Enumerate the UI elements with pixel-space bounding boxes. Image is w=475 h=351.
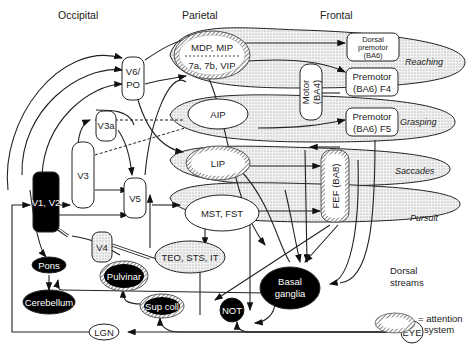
svg-text:FEF (BA8): FEF (BA8) (330, 164, 341, 209)
node-v3: V3 (72, 142, 94, 208)
legend-attention-swatch (375, 313, 415, 333)
svg-text:MDP, MIP: MDP, MIP (191, 42, 233, 53)
header-parietal: Parietal (182, 9, 218, 21)
visual-pathways-diagram: Occipital Parietal Frontal Reaching Gras… (0, 0, 475, 351)
svg-text:V5: V5 (129, 193, 141, 204)
node-v3a: V3a (96, 111, 116, 141)
node-basal-ganglia: Basal ganglia (260, 267, 320, 309)
node-motor-ba4: Motor (BA4) (300, 64, 322, 120)
node-lip: LIP (186, 146, 250, 180)
legend-dorsal-line2: streams (390, 277, 424, 288)
node-mst-fst: MST, FST (185, 195, 259, 231)
node-v4: V4 (92, 232, 112, 262)
svg-text:Pons: Pons (38, 260, 60, 271)
header-frontal: Frontal (320, 9, 353, 21)
legend-attention-line1: = attention (418, 313, 463, 324)
svg-text:(BA6): (BA6) (363, 51, 383, 60)
svg-text:(BA6) F5: (BA6) F5 (353, 123, 391, 134)
svg-text:V6/: V6/ (126, 66, 141, 77)
svg-text:NOT: NOT (222, 305, 242, 316)
svg-text:MST, FST: MST, FST (201, 208, 243, 219)
node-pons: Pons (32, 257, 66, 273)
svg-text:7a, 7b, VIP: 7a, 7b, VIP (188, 60, 235, 71)
svg-text:Cerebellum: Cerebellum (25, 297, 74, 308)
node-sup-coll: Sup coll (140, 294, 184, 318)
svg-text:LGN: LGN (94, 327, 114, 338)
svg-text:PO: PO (126, 79, 140, 90)
node-v6-po: V6/ PO (122, 57, 144, 100)
node-mdp-mip-7a: MDP, MIP 7a, 7b, VIP (174, 31, 250, 79)
svg-text:ganglia: ganglia (275, 288, 306, 299)
svg-text:TEO, STS, IT: TEO, STS, IT (161, 252, 218, 263)
node-premotor-f5: Premotor (BA6) F5 (346, 108, 398, 136)
legend-dorsal-line1: Dorsal (390, 265, 417, 276)
node-cerebellum: Cerebellum (23, 290, 75, 314)
svg-text:V4: V4 (96, 242, 108, 253)
svg-text:LIP: LIP (211, 158, 225, 169)
node-fef-ba8: FEF (BA8) (321, 150, 349, 222)
svg-text:Pulvinar: Pulvinar (107, 271, 141, 282)
node-pulvinar: Pulvinar (100, 261, 148, 291)
svg-text:Premotor: Premotor (352, 71, 391, 82)
legend-attention-line2: system (424, 324, 454, 335)
stream-label-grasping: Grasping (400, 117, 437, 127)
node-v5: V5 (124, 178, 146, 218)
node-lgn: LGN (89, 324, 119, 340)
svg-text:V3: V3 (77, 170, 89, 181)
svg-text:Motor: Motor (300, 80, 311, 104)
svg-text:(BA4): (BA4) (311, 80, 322, 104)
stream-label-pursuit: Pursuit (410, 213, 439, 223)
node-teo-sts-it: TEO, STS, IT (155, 241, 225, 273)
stream-label-reaching: Reaching (405, 57, 443, 67)
svg-text:Basal: Basal (278, 276, 302, 287)
header-occipital: Occipital (58, 9, 98, 21)
node-dorsal-premotor: Dorsal premotor (BA6) (347, 33, 399, 61)
svg-text:AIP: AIP (210, 109, 225, 120)
node-not: NOT (220, 298, 244, 322)
svg-text:Sup coll: Sup coll (145, 301, 179, 312)
stream-label-saccades: Saccades (395, 166, 435, 176)
svg-text:V1, V2: V1, V2 (32, 197, 61, 208)
svg-text:V3a: V3a (98, 120, 116, 131)
svg-text:Premotor: Premotor (352, 111, 391, 122)
node-premotor-f4: Premotor (BA6) F4 (346, 68, 398, 96)
node-aip: AIP (188, 99, 248, 129)
node-v1-v2: V1, V2 (32, 172, 61, 232)
svg-text:(BA6) F4: (BA6) F4 (353, 83, 391, 94)
